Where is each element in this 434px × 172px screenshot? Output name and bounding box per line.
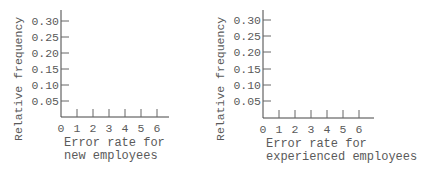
svg-text:3: 3	[106, 122, 113, 135]
svg-text:0: 0	[260, 123, 267, 136]
chart-new-employees-svg: Relative frequency 0.30 0.25 0.20 0.15 0…	[0, 0, 200, 172]
svg-text:0.30: 0.30	[233, 14, 261, 27]
y-axis-label: Relative frequency	[214, 17, 227, 141]
svg-text:0.05: 0.05	[233, 95, 261, 108]
svg-text:1: 1	[74, 122, 81, 135]
svg-text:6: 6	[356, 123, 363, 136]
x-tick-labels: 0 1 2 3 4 5 6	[260, 123, 363, 136]
svg-text:0.15: 0.15	[31, 63, 59, 76]
svg-text:6: 6	[154, 122, 161, 135]
y-tick-labels: 0.30 0.25 0.20 0.15 0.10 0.05	[31, 15, 59, 108]
svg-text:0.10: 0.10	[31, 79, 59, 92]
x-axis-label-line2: new employees	[64, 149, 158, 163]
svg-text:0.20: 0.20	[31, 47, 59, 60]
chart-experienced-employees-svg: Relative frequency 0.30 0.25 0.20 0.15 0…	[202, 0, 434, 172]
x-ticks	[77, 109, 157, 117]
svg-text:4: 4	[324, 123, 331, 136]
y-ticks	[263, 20, 271, 101]
y-axis-label: Relative frequency	[12, 17, 25, 141]
svg-text:1: 1	[276, 123, 283, 136]
svg-text:0: 0	[58, 122, 65, 135]
y-ticks	[61, 21, 69, 101]
chart-new-employees: Relative frequency 0.30 0.25 0.20 0.15 0…	[0, 0, 200, 172]
svg-text:2: 2	[292, 123, 299, 136]
svg-text:5: 5	[340, 123, 347, 136]
svg-text:4: 4	[122, 122, 129, 135]
svg-text:2: 2	[90, 122, 97, 135]
svg-text:0.15: 0.15	[233, 63, 261, 76]
svg-text:0.25: 0.25	[31, 31, 59, 44]
chart-experienced-employees: Relative frequency 0.30 0.25 0.20 0.15 0…	[202, 0, 434, 172]
y-tick-labels: 0.30 0.25 0.20 0.15 0.10 0.05	[233, 14, 261, 108]
svg-text:0.30: 0.30	[31, 15, 59, 28]
svg-text:5: 5	[138, 122, 145, 135]
x-tick-labels: 0 1 2 3 4 5 6	[58, 122, 161, 135]
svg-text:0.10: 0.10	[233, 79, 261, 92]
x-axis-label-line1: Error rate for	[64, 136, 165, 150]
x-axis-label-line1: Error rate for	[266, 137, 367, 151]
svg-text:3: 3	[308, 123, 315, 136]
svg-text:0.20: 0.20	[233, 46, 261, 59]
x-axis-label-line2: experienced employees	[266, 150, 417, 164]
svg-text:0.25: 0.25	[233, 30, 261, 43]
x-ticks	[279, 110, 359, 118]
svg-text:0.05: 0.05	[31, 95, 59, 108]
